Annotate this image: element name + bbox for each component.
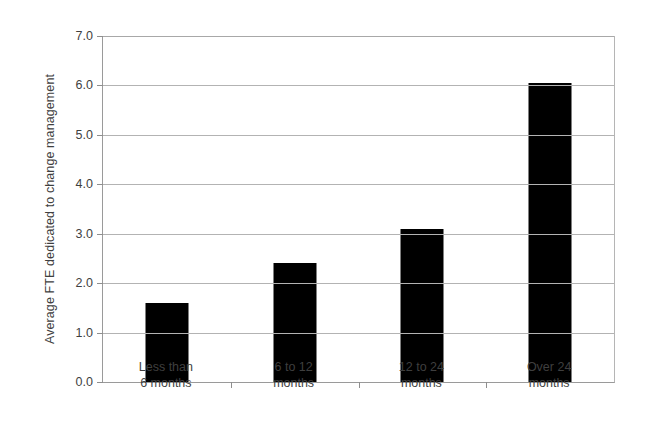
x-axis-label-line: months [230,375,358,391]
gridline-3.0 [103,234,614,235]
plot-area: 0.01.02.03.04.05.06.07.0 [102,36,615,383]
gridline-5.0 [103,135,614,136]
x-axis-label: Over 24months [485,359,613,391]
bar-slot [359,36,487,382]
y-tick-label-3.0: 3.0 [43,227,103,241]
gridline-4.0 [103,184,614,185]
y-tick-label-7.0: 7.0 [43,29,103,43]
y-tick-label-2.0: 2.0 [43,276,103,290]
y-tick-label-5.0: 5.0 [43,128,103,142]
x-axis-label-line: Less than [102,359,230,375]
bar[interactable] [529,83,572,382]
gridline-1.0 [103,333,614,334]
x-axis-label-line: months [358,375,486,391]
gridline-7.0 [103,36,614,37]
x-axis-label: 6 to 12months [230,359,358,391]
x-axis-label: Less than6 months [102,359,230,391]
gridline-2.0 [103,283,614,284]
x-axis-label-line: 6 months [102,375,230,391]
x-axis-label-line: 6 to 12 [230,359,358,375]
x-axis-label-line: 12 to 24 [358,359,486,375]
y-tick-label-4.0: 4.0 [43,177,103,191]
x-axis-label: 12 to 24months [358,359,486,391]
bar-slot [486,36,614,382]
bar-slot [231,36,359,382]
x-axis-label-line: Over 24 [485,359,613,375]
y-tick-label-0.0: 0.0 [43,375,103,389]
gridline-6.0 [103,85,614,86]
bar-chart-figure: Average FTE dedicated to change manageme… [0,0,647,442]
bars-layer [103,36,614,382]
y-tick-label-1.0: 1.0 [43,326,103,340]
bar-slot [103,36,231,382]
x-axis-label-line: months [485,375,613,391]
y-tick-label-6.0: 6.0 [43,78,103,92]
